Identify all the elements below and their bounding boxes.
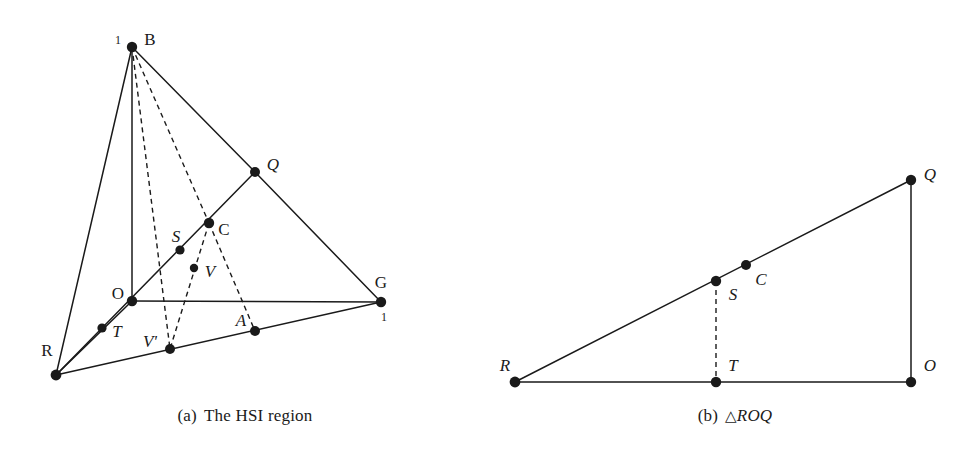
triangle-icon: △ (725, 407, 737, 425)
panel-b-caption-text: ROQ (737, 406, 773, 425)
vertex-point-B (127, 42, 137, 52)
vertex-label-O: O (924, 356, 936, 375)
vertex-point-O (127, 296, 137, 306)
vertex-label-Vp: V' (143, 332, 157, 351)
vertex-point-O (906, 377, 916, 387)
vertex-label-C: C (218, 220, 229, 239)
vertex-point-R (51, 370, 62, 381)
vertex-point-A (250, 326, 260, 336)
panel-a-caption: (a)The HSI region (0, 406, 490, 426)
vertex-label-O: O (112, 284, 124, 303)
vertex-label-B: B (144, 30, 155, 49)
edge-B-Q (132, 47, 255, 172)
figure-root: BQCSVOGTAV'R11 QCSOTR (a)The HSI region … (0, 0, 980, 454)
edge-C-A (209, 223, 255, 331)
tick-g-one: 1 (381, 310, 387, 324)
vertex-label-T: T (728, 356, 739, 375)
vertex-label-G: G (375, 273, 387, 292)
vertex-label-C: C (755, 270, 767, 289)
vertex-label-R: R (41, 341, 53, 360)
vertex-label-S: S (729, 285, 738, 304)
vertex-point-Q (250, 167, 260, 177)
vertex-point-Vp (165, 344, 175, 354)
vertex-point-C (741, 260, 751, 270)
hsi-region-figure: BQCSVOGTAV'R11 QCSOTR (0, 0, 980, 454)
panel-b-diagram: QCSOTR (499, 165, 936, 387)
vertex-label-A: A (235, 311, 247, 330)
vertex-point-S (175, 245, 184, 254)
vertex-point-V (190, 264, 198, 272)
panel-a-diagram: BQCSVOGTAV'R11 (41, 30, 387, 380)
panel-a-caption-text: The HSI region (204, 406, 313, 425)
vertex-point-T (711, 377, 721, 387)
vertex-point-C (204, 218, 214, 228)
panel-b-caption: (b)△ROQ (490, 406, 980, 426)
vertex-label-Q: Q (267, 155, 279, 174)
vertex-point-G (376, 297, 386, 307)
vertex-label-S: S (172, 227, 181, 246)
edge-B-C (132, 47, 209, 223)
vertex-point-R (510, 377, 521, 388)
vertex-label-V: V (205, 262, 218, 281)
edge-B-Vp (132, 47, 170, 349)
vertex-point-S (711, 276, 721, 286)
vertex-point-T (97, 323, 106, 332)
panel-a-caption-label: (a) (177, 406, 196, 425)
vertex-label-Q: Q (924, 165, 936, 184)
edge-Q-G (255, 172, 381, 302)
vertex-label-T: T (112, 322, 123, 341)
vertex-label-R: R (499, 356, 511, 375)
panel-b-caption-label: (b) (698, 406, 718, 425)
edge-R-G (56, 302, 381, 375)
edge-O-G (132, 301, 381, 302)
vertex-point-Q (906, 175, 916, 185)
tick-b-one: 1 (115, 33, 121, 47)
